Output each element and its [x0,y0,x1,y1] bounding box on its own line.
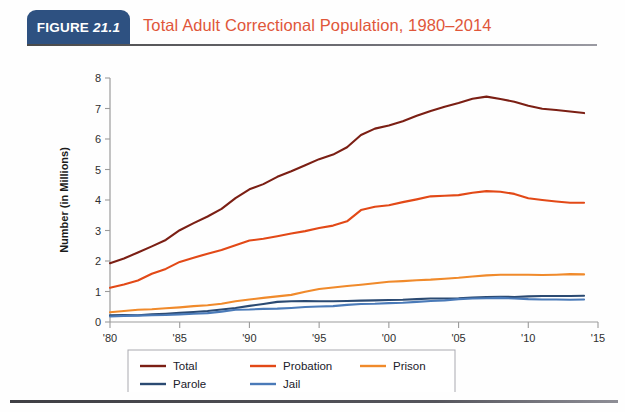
y-tick-label: 5 [95,164,101,176]
x-tick-label: '05 [451,332,465,344]
figure-badge-number: 21.1 [93,20,120,35]
y-axis-title: Number (in Millions) [58,147,70,253]
legend-label-parole: Parole [173,378,206,390]
x-tick-label: '95 [312,332,326,344]
chart-plot-area: 012345678'80'85'90'95'00'05'10'15Number … [0,52,625,392]
x-tick-label: '10 [521,332,535,344]
header-divider [27,44,597,46]
y-tick-label: 6 [95,133,101,145]
legend-label-total: Total [173,360,197,372]
y-tick-label: 4 [95,194,101,206]
figure-badge-word: FIGURE [37,20,89,35]
figure-badge: FIGURE 21.1 [27,10,130,44]
y-tick-label: 1 [95,286,101,298]
figure-container: FIGURE 21.1 Total Adult Correctional Pop… [0,0,625,412]
footer-divider [10,400,618,403]
y-tick-label: 0 [95,316,101,328]
figure-header: FIGURE 21.1 Total Adult Correctional Pop… [0,10,625,46]
x-tick-label: '85 [173,332,187,344]
figure-title: Total Adult Correctional Population, 198… [143,16,492,35]
y-tick-label: 7 [95,103,101,115]
series-line-total [110,97,584,264]
x-tick-label: '00 [382,332,396,344]
x-tick-label: '90 [242,332,256,344]
line-chart: 012345678'80'85'90'95'00'05'10'15Number … [0,52,625,392]
legend-label-jail: Jail [283,378,300,390]
legend-label-prison: Prison [393,360,426,372]
x-tick-label: '80 [103,332,117,344]
x-tick-label: '15 [591,332,605,344]
series-line-prison [110,274,584,312]
y-tick-label: 2 [95,255,101,267]
legend-label-probation: Probation [283,360,332,372]
y-tick-label: 3 [95,225,101,237]
y-tick-label: 8 [95,72,101,84]
series-line-probation [110,191,584,288]
